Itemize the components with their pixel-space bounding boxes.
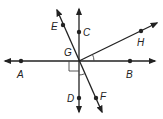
label-c: C [83, 27, 91, 38]
label-f: F [100, 91, 107, 102]
label-h: H [137, 37, 145, 48]
label-g: G [64, 47, 72, 58]
angle-arc-bgh [93, 55, 95, 62]
label-e: E [51, 21, 58, 32]
ray-gh [79, 23, 157, 61]
point-c [77, 30, 81, 34]
angle-arc-dgf [79, 74, 85, 75]
label-b: B [126, 69, 133, 80]
point-h [139, 29, 143, 33]
point-a [19, 59, 23, 63]
point-d [77, 96, 81, 100]
point-e [61, 23, 65, 27]
right-angle-mark [69, 61, 79, 71]
geometry-diagram: A B C D E F G H [0, 0, 163, 119]
label-d: D [67, 93, 74, 104]
label-a: A [16, 69, 24, 80]
point-f [94, 96, 98, 100]
point-b [128, 59, 132, 63]
